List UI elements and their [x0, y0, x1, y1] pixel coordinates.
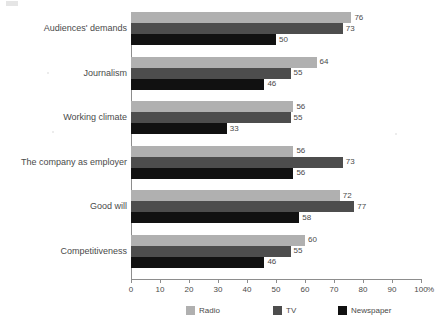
bar-radio [131, 235, 305, 246]
x-axis-tick-label: 80 [359, 286, 368, 294]
x-axis-tick [189, 279, 190, 283]
bar-row: 33 [131, 123, 421, 134]
bar-value-label: 64 [317, 58, 329, 66]
legend-label: Newspaper [351, 307, 391, 315]
bar-value-label: 46 [264, 80, 276, 88]
bar-row: 64 [131, 57, 421, 68]
category-label: The company as employer [3, 158, 127, 167]
scan-artifact [6, 1, 18, 6]
bar-group: 767350 [131, 12, 421, 45]
x-axis-tick [363, 279, 364, 283]
bar-radio [131, 146, 293, 157]
x-axis-tick [421, 279, 422, 283]
bar-value-label: 60 [305, 236, 317, 244]
bar-radio [131, 12, 351, 23]
bar-row: 60 [131, 235, 421, 246]
bar-group: 605546 [131, 235, 421, 268]
x-axis-tick [218, 279, 219, 283]
legend-item-tv[interactable]: TV [273, 306, 296, 315]
bar-tv [131, 68, 291, 79]
category-label: Audiences' demands [3, 24, 127, 33]
bar-row: 77 [131, 201, 421, 212]
legend-swatch-icon [273, 306, 282, 315]
bar-value-label: 73 [343, 25, 355, 33]
bar-tv [131, 157, 343, 168]
bar-newspaper [131, 257, 264, 268]
plot-area: 767350645546565533567356727758605546 [131, 12, 421, 278]
bar-value-label: 58 [299, 214, 311, 222]
bar-value-label: 77 [354, 203, 366, 211]
bar-row: 56 [131, 101, 421, 112]
bar-value-label: 56 [293, 147, 305, 155]
x-axis-tick [392, 279, 393, 283]
bar-newspaper [131, 168, 293, 179]
bar-newspaper [131, 212, 299, 223]
bar-row: 73 [131, 23, 421, 34]
x-axis-tick [131, 279, 132, 283]
x-axis-tick [305, 279, 306, 283]
category-label: Competitiveness [3, 247, 127, 256]
bar-row: 73 [131, 157, 421, 168]
x-axis-tick-label: 50 [272, 286, 281, 294]
bar-tv [131, 246, 291, 257]
x-axis-tick-label: 30 [214, 286, 223, 294]
bar-radio [131, 57, 317, 68]
bar-radio [131, 101, 293, 112]
bar-radio [131, 190, 340, 201]
bar-group: 645546 [131, 57, 421, 90]
bar-value-label: 56 [293, 103, 305, 111]
bar-row: 46 [131, 79, 421, 90]
bar-value-label: 55 [291, 69, 303, 77]
bar-value-label: 55 [291, 247, 303, 255]
legend-item-newspaper[interactable]: Newspaper [338, 306, 391, 315]
category-axis-labels: Audiences' demandsJournalismWorking clim… [0, 12, 127, 278]
bar-value-label: 55 [291, 114, 303, 122]
x-axis-tick-label: 10 [156, 286, 165, 294]
bar-row: 76 [131, 12, 421, 23]
legend-label: TV [286, 307, 296, 315]
bar-row: 56 [131, 168, 421, 179]
bar-newspaper [131, 123, 227, 134]
bar-row: 50 [131, 34, 421, 45]
bar-newspaper [131, 79, 264, 90]
bar-row: 56 [131, 146, 421, 157]
bar-value-label: 33 [227, 125, 239, 133]
legend-item-radio[interactable]: Radio [186, 306, 220, 315]
bar-tv [131, 112, 291, 123]
bar-value-label: 46 [264, 258, 276, 266]
x-axis-tick-label: 20 [185, 286, 194, 294]
x-axis-tick-label: 60 [301, 286, 310, 294]
bar-row: 55 [131, 68, 421, 79]
x-axis-tick [247, 279, 248, 283]
bar-row: 72 [131, 190, 421, 201]
x-axis-tick-label: 70 [330, 286, 339, 294]
bar-value-label: 56 [293, 169, 305, 177]
bar-row: 55 [131, 246, 421, 257]
x-axis-tick [334, 279, 335, 283]
bar-tv [131, 23, 343, 34]
bar-row: 55 [131, 112, 421, 123]
bar-value-label: 76 [351, 14, 363, 22]
bar-row: 46 [131, 257, 421, 268]
bar-chart: Audiences' demandsJournalismWorking clim… [0, 0, 441, 326]
x-axis-tick [160, 279, 161, 283]
bar-group: 727758 [131, 190, 421, 223]
bar-group: 567356 [131, 146, 421, 179]
category-label: Working climate [3, 113, 127, 122]
legend-label: Radio [199, 307, 220, 315]
bar-group: 565533 [131, 101, 421, 134]
category-label: Journalism [3, 69, 127, 78]
x-axis-tick [276, 279, 277, 283]
x-axis-tick-label: 40 [243, 286, 252, 294]
bar-row: 58 [131, 212, 421, 223]
x-axis-unit-label: % [427, 286, 434, 294]
bar-newspaper [131, 34, 276, 45]
x-axis-tick-label: 100 [414, 286, 427, 294]
bar-value-label: 72 [340, 192, 352, 200]
legend-swatch-icon [338, 306, 347, 315]
bar-value-label: 73 [343, 158, 355, 166]
category-label: Good will [3, 202, 127, 211]
bar-value-label: 50 [276, 36, 288, 44]
legend-swatch-icon [186, 306, 195, 315]
x-axis-tick-label: 0 [129, 286, 133, 294]
